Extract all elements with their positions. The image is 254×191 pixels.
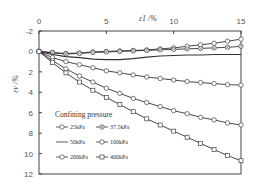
legend-item: 25kPa [56, 124, 85, 130]
plot-frame [39, 31, 241, 174]
legend-item: 100kPa [96, 139, 128, 145]
svg-text:200kPa: 200kPa [70, 154, 88, 160]
svg-text:25kPa: 25kPa [70, 124, 85, 130]
y-tick-label: 10 [24, 150, 33, 159]
svg-text:400kPa: 400kPa [110, 154, 128, 160]
y-tick-label: 12 [24, 170, 33, 179]
legend: Confining pressure25kPa37.5kPa50kPa100kP… [55, 110, 130, 160]
legend-item: 400kPa [96, 154, 128, 160]
x-axis-label: ε1 /% [139, 14, 157, 23]
legend-title: Confining pressure [55, 110, 113, 119]
svg-text:50kPa: 50kPa [70, 139, 85, 145]
legend-item: 200kPa [56, 154, 88, 160]
y-tick-label: 0 [29, 47, 34, 56]
svg-text:100kPa: 100kPa [110, 139, 128, 145]
x-tick-label: 5 [104, 17, 109, 26]
legend-item: 50kPa [56, 139, 85, 145]
x-tick-label: 15 [237, 17, 246, 26]
series-400kPa [37, 49, 243, 162]
svg-text:37.5kPa: 37.5kPa [110, 124, 130, 130]
y-tick-label: 4 [29, 88, 34, 97]
y-axis-label: εv /% [11, 75, 20, 93]
y-tick-label: 6 [29, 109, 34, 118]
series-50kPa [39, 51, 241, 59]
y-tick-label: -2 [26, 27, 34, 36]
series-group [37, 37, 243, 163]
chart: 051015-2024681012ε1 /%εv /% Confining pr… [0, 0, 254, 191]
y-tick-label: 8 [29, 129, 34, 138]
x-tick-label: 0 [37, 17, 42, 26]
y-tick-label: 2 [29, 68, 34, 77]
x-tick-label: 10 [169, 17, 178, 26]
legend-item: 37.5kPa [96, 124, 130, 130]
